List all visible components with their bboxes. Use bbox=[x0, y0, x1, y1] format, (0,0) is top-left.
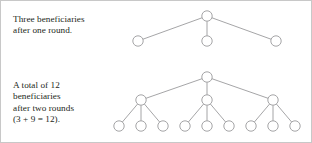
tree-edge bbox=[188, 104, 203, 122]
tree-edge bbox=[122, 104, 137, 122]
tree-node bbox=[268, 121, 278, 131]
tree-node bbox=[114, 121, 124, 131]
tree-node bbox=[290, 121, 300, 131]
tree-node bbox=[202, 11, 212, 21]
tree-node bbox=[202, 72, 212, 82]
tree-edge bbox=[212, 79, 268, 99]
tree-edge bbox=[143, 18, 202, 39]
tree-node bbox=[158, 121, 168, 131]
diagram-canvas: Three beneficiaries after one round. A t… bbox=[0, 0, 312, 143]
tree-node bbox=[268, 95, 278, 105]
tree-node bbox=[136, 95, 146, 105]
branching-tree-diagram bbox=[1, 1, 312, 143]
tree-node bbox=[271, 36, 281, 46]
tree-node bbox=[202, 121, 212, 131]
tree-edge bbox=[144, 104, 159, 122]
tree-node bbox=[202, 36, 212, 46]
tree-edge bbox=[210, 104, 225, 122]
tree-edge bbox=[276, 104, 291, 122]
tree-edge bbox=[212, 18, 271, 39]
tree-edge bbox=[146, 79, 202, 99]
tree-node bbox=[202, 95, 212, 105]
tree-edge bbox=[254, 104, 269, 122]
tree-node bbox=[224, 121, 234, 131]
tree-node bbox=[133, 36, 143, 46]
tree-edges-layer bbox=[122, 18, 291, 122]
tree-node bbox=[136, 121, 146, 131]
tree-node bbox=[246, 121, 256, 131]
tree-node bbox=[180, 121, 190, 131]
